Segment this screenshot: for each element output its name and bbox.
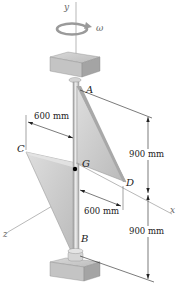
lower-triangular-plate: [26, 152, 76, 262]
x-axis-label: x: [170, 205, 175, 215]
rotation-arrow-icon: ω: [57, 22, 104, 35]
bottom-bearing-block: [50, 248, 100, 281]
dimension-upper-900: 900 mm: [128, 117, 176, 193]
dimension-lower-900: 900 mm: [128, 195, 176, 279]
point-b-label: B: [80, 233, 88, 244]
dimension-lower-600: 600 mm: [80, 186, 123, 216]
omega-label: ω: [96, 23, 104, 33]
top-bearing-block: [50, 52, 100, 83]
dimension-lower-600-label: 600 mm: [84, 206, 119, 216]
dimension-lower-900-label: 900 mm: [129, 226, 164, 236]
dimension-upper-900-label: 900 mm: [129, 149, 164, 159]
point-g-label: G: [82, 158, 90, 169]
dimension-upper-600: 600 mm: [26, 111, 73, 150]
point-d-label: D: [125, 177, 134, 188]
center-of-mass-dot: [73, 167, 77, 171]
y-axis: y: [63, 2, 76, 60]
z-axis-label: z: [2, 229, 8, 239]
diagram-canvas: y ω z x G A C D B: [0, 0, 179, 284]
point-c-label: C: [17, 143, 25, 154]
y-axis-label: y: [63, 2, 70, 12]
dimension-upper-600-label: 600 mm: [34, 111, 69, 121]
